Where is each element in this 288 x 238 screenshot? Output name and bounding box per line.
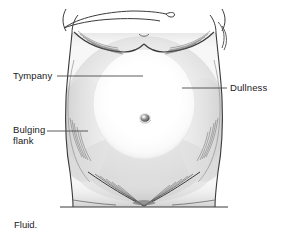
abdomen-illustration bbox=[0, 0, 288, 238]
label-tympany: Tympany bbox=[13, 70, 52, 81]
label-bulging-flank-line2: flank bbox=[13, 135, 34, 146]
label-bulging-flank-line1: Bulging bbox=[13, 124, 45, 135]
drape-fold-right bbox=[218, 22, 226, 50]
figure-caption: Fluid. bbox=[14, 219, 37, 230]
upper-torso-curves bbox=[63, 9, 225, 33]
drape-sheet bbox=[64, 11, 175, 28]
umbilicus bbox=[139, 113, 151, 123]
label-dullness: Dullness bbox=[230, 82, 267, 93]
label-bulging-flank: Bulgingflank bbox=[13, 124, 45, 146]
figure-container: Tympany Dullness Bulgingflank Fluid. bbox=[0, 0, 288, 238]
